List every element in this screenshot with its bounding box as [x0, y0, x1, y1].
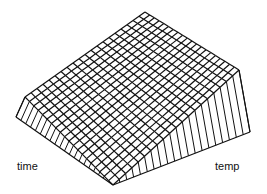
surface-grid: [25, 12, 239, 185]
y-axis-label: temp: [215, 160, 239, 172]
x-axis-label: time: [17, 160, 38, 172]
